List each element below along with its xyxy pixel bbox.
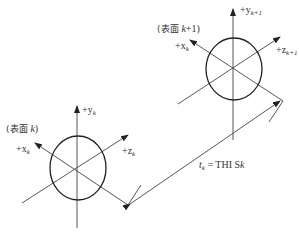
y-k-sign: +y <box>82 104 93 115</box>
z-k-sub: k <box>132 150 135 158</box>
label-z-k: +zk <box>122 145 135 160</box>
z-k-sign: +z <box>122 145 132 156</box>
x-k-sign: +x <box>16 143 27 154</box>
x-k1-sub: k <box>186 45 189 53</box>
x-axis-k1 <box>190 40 283 101</box>
label-x-k: +xk <box>16 143 30 158</box>
surface-k-suffix: ) <box>35 123 38 134</box>
thickness-var2: k <box>240 159 244 170</box>
y-k1-sub: k+1 <box>251 9 262 17</box>
x-k-sub: k <box>27 148 30 156</box>
surface-k-prefix: (表面 <box>6 124 30 134</box>
thickness-dimension <box>128 101 283 205</box>
z-k1-sign: +z <box>276 44 286 55</box>
label-y-k1: +yk+1 <box>240 4 262 19</box>
surface-k-circle <box>50 136 106 200</box>
label-surface-k1: (表面 k+1) <box>157 23 200 35</box>
diagram-canvas <box>0 0 299 238</box>
label-thickness: tk = THI Sk <box>199 159 245 174</box>
surface-k1-prefix: (表面 <box>157 24 181 34</box>
z-k1-sub: k+1 <box>286 49 297 57</box>
label-y-k: +yk <box>82 104 96 119</box>
y-k1-sign: +y <box>240 4 251 15</box>
dimension-line <box>130 101 280 204</box>
extension-line-k <box>128 185 141 205</box>
x-axis-k <box>35 143 128 205</box>
label-x-k1: +xk <box>175 40 189 55</box>
x-k1-sign: +x <box>175 40 186 51</box>
thickness-eq: = THI S <box>205 159 240 170</box>
label-z-k1: +zk+1 <box>276 44 297 59</box>
surface-k1-suffix: +1) <box>186 23 200 34</box>
label-surface-k: (表面 k) <box>6 123 38 135</box>
y-k-sub: k <box>93 109 96 117</box>
z-axis-k1 <box>178 37 280 104</box>
